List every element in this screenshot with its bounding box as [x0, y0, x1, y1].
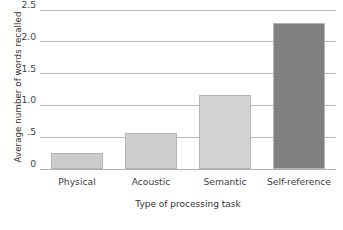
x-axis-ticks: PhysicalAcousticSemanticSelf-reference [40, 176, 336, 192]
bar [199, 95, 251, 169]
x-tick-label: Self-reference [262, 176, 336, 187]
x-tick-label: Physical [40, 176, 114, 187]
bars-layer [40, 10, 336, 169]
y-tick-label: 1.5 [6, 63, 36, 74]
x-axis-title: Type of processing task [40, 199, 336, 209]
y-tick-label: 0 [6, 158, 36, 169]
bar-chart: Average number of words recalled 0.51.01… [0, 0, 343, 230]
x-tick-label: Semantic [188, 176, 262, 187]
x-tick-label: Acoustic [114, 176, 188, 187]
y-tick-label: 2.0 [6, 31, 36, 42]
bar [273, 23, 325, 169]
bar [125, 133, 177, 169]
y-axis-title: Average number of words recalled [13, 2, 23, 172]
y-tick-label: .5 [6, 126, 36, 137]
bar [51, 153, 103, 169]
y-tick-label: 1.0 [6, 94, 36, 105]
y-tick-label: 2.5 [6, 0, 36, 10]
